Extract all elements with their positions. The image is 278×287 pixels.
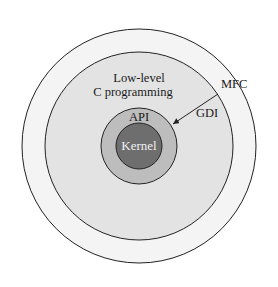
label-low-level: Low-level bbox=[113, 71, 165, 85]
label-gdi: GDI bbox=[196, 106, 218, 120]
label-api: API bbox=[129, 110, 149, 124]
label-mfc: MFC bbox=[221, 77, 247, 91]
layered-circle-diagram: Low-level C programming MFC GDI API Kern… bbox=[0, 0, 278, 287]
label-kernel: Kernel bbox=[121, 138, 157, 153]
label-c-programming: C programming bbox=[93, 85, 173, 99]
